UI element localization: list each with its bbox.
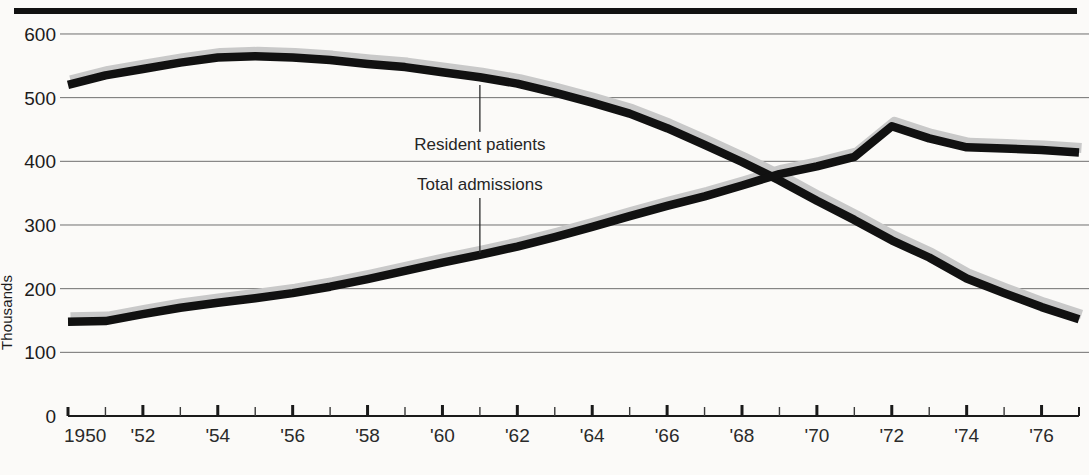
series-annotations: Resident patientsTotal admissions: [414, 85, 545, 253]
series-shadow-resident-patients: [71, 52, 1082, 315]
y-tick-label: 500: [24, 88, 56, 109]
x-tick-label: '74: [954, 425, 979, 446]
x-tick-label: '52: [131, 425, 156, 446]
y-tick-label: 300: [24, 215, 56, 236]
annotation-label: Total admissions: [417, 175, 543, 194]
y-tick-label: 400: [24, 151, 56, 172]
x-tick-label: '54: [205, 425, 230, 446]
x-tick-label: '70: [805, 425, 830, 446]
x-tick-label: '62: [505, 425, 530, 446]
y-tick-label: 200: [24, 279, 56, 300]
y-tick-label: 600: [24, 24, 56, 45]
series-line-resident-patients: [68, 56, 1079, 319]
y-tick-label: 100: [24, 342, 56, 363]
series-shadow-total-admissions: [71, 122, 1082, 317]
x-axis-tick-labels: 1950'52'54'56'58'60'62'64'66'68'70'72'74…: [64, 425, 1054, 446]
x-tick-label: '66: [655, 425, 680, 446]
y-axis-origin-label: 0: [45, 406, 56, 427]
x-tick-label: '68: [730, 425, 755, 446]
x-tick-label: '60: [430, 425, 455, 446]
x-tick-label: '58: [355, 425, 380, 446]
series-lines: [68, 56, 1079, 322]
line-chart-plot: 1002003004005006000 1950'52'54'56'58'60'…: [0, 0, 1089, 475]
series-shadows: [71, 52, 1082, 318]
x-tick-label: '76: [1029, 425, 1054, 446]
y-axis-tick-labels: 1002003004005006000: [24, 24, 68, 427]
annotation-label: Resident patients: [414, 135, 545, 154]
x-tick-label: 1950: [64, 425, 106, 446]
x-axis: [68, 405, 1079, 416]
x-tick-label: '64: [580, 425, 605, 446]
chart-figure: Thousands 1002003004005006000 1950'52'54…: [0, 0, 1089, 475]
x-tick-label: '56: [280, 425, 305, 446]
x-tick-label: '72: [879, 425, 904, 446]
